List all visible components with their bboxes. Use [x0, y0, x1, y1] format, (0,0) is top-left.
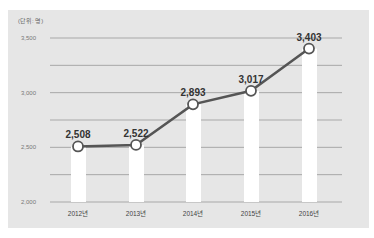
- y-tick-label: 2,500: [21, 144, 37, 150]
- x-tick-label: 2012년: [68, 209, 88, 217]
- bars: [71, 49, 317, 202]
- x-tick-label: 2015년: [241, 209, 261, 217]
- data-label: 2,522: [123, 128, 148, 139]
- bar: [244, 91, 259, 202]
- marker-circle: [304, 44, 314, 54]
- bar: [71, 146, 86, 202]
- x-tick-label: 2013년: [126, 209, 146, 217]
- data-label: 3,403: [296, 32, 321, 43]
- unit-label: (단위: 명): [18, 17, 43, 25]
- marker-circle: [246, 86, 256, 96]
- bar: [186, 104, 201, 202]
- y-tick-label: 3,500: [21, 35, 37, 41]
- marker-circle: [73, 141, 83, 151]
- bar-line-chart: (단위: 명) 2,0002,5003,0003,500 2,5082,5222…: [0, 0, 374, 238]
- marker-circle: [131, 140, 141, 150]
- y-axis-ticks: 2,0002,5003,0003,500: [21, 35, 37, 205]
- y-tick-label: 2,000: [21, 199, 37, 205]
- data-label: 3,017: [238, 74, 263, 85]
- x-tick-label: 2016년: [299, 209, 319, 217]
- bar: [129, 145, 144, 202]
- marker-circle: [188, 99, 198, 109]
- bar: [302, 49, 317, 202]
- x-axis-labels: 2012년2013년2014년2015년2016년: [68, 209, 319, 217]
- y-tick-label: 3,000: [21, 90, 37, 96]
- data-label: 2,508: [65, 129, 90, 140]
- x-tick-label: 2014년: [183, 209, 203, 217]
- data-label: 2,893: [180, 87, 205, 98]
